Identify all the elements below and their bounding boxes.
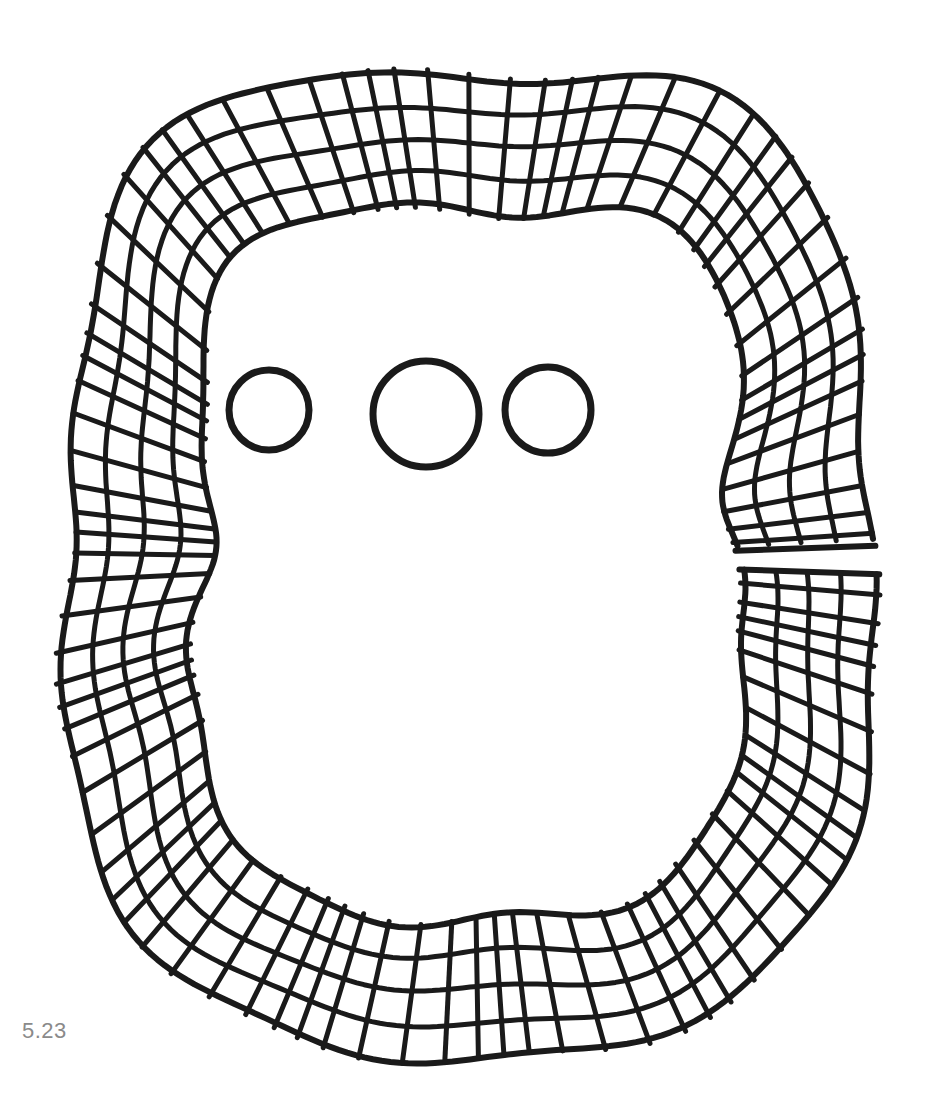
circle-1	[229, 370, 309, 450]
ring-cell-divider	[445, 922, 452, 1062]
ring-cell-divider	[70, 573, 210, 580]
circle-3	[505, 367, 591, 453]
ring-cell-divider	[209, 877, 281, 997]
segmented-ring-figure	[0, 0, 936, 1108]
ring-gap-edge	[739, 569, 879, 574]
ring-cell-divider	[297, 906, 345, 1038]
ring-gap-edge	[736, 546, 876, 551]
grid-ring	[56, 69, 880, 1064]
three-circles	[229, 361, 591, 467]
ring-cell-divider	[476, 917, 478, 1057]
ring-cell-divider	[107, 215, 208, 311]
ring-cell-divider	[402, 925, 421, 1064]
ring-cell-divider	[82, 721, 202, 793]
ring-band-line	[186, 202, 746, 927]
ring-cell-divider	[75, 553, 215, 556]
ring-cell-divider	[73, 694, 199, 756]
figure-caption: 5.23	[22, 1018, 67, 1044]
circle-2	[373, 361, 479, 467]
ring-cell-divider	[694, 840, 781, 949]
ring-band-line	[154, 171, 779, 959]
ring-cell-divider	[524, 80, 546, 218]
ring-cell-divider	[712, 814, 809, 915]
